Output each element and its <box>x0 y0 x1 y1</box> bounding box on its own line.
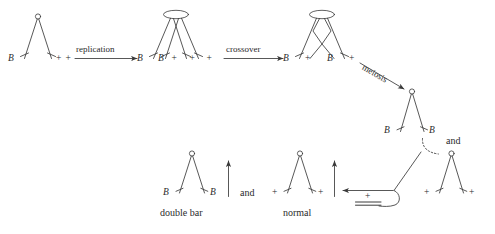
stage2-arm-label-1: B <box>158 54 164 64</box>
result-normal-label-left: + <box>272 188 277 198</box>
stage2-trailing-label: + <box>207 54 212 64</box>
and-connector-top: and <box>446 136 460 146</box>
loop-fragment-label: + <box>365 192 370 202</box>
stage3-arm-label-0: B <box>283 54 289 64</box>
stage1-chromosome <box>21 14 56 59</box>
crossover-arrow-label: crossover <box>226 45 261 54</box>
result-double-bar-label-left: B <box>163 188 169 198</box>
figure-canvas: B + + replication B B + + + crossover B … <box>0 0 495 234</box>
diagram-vector-layer <box>0 0 495 234</box>
product-double-bar-label-left: B <box>384 126 390 136</box>
product-normal-label-right: + <box>469 188 474 198</box>
result-double-bar-label-right: B <box>210 188 216 198</box>
stage3-arm-label-1: + <box>305 54 310 64</box>
stage2-arm-label-3: + <box>190 54 195 64</box>
stage2-chromosome <box>150 10 203 58</box>
stage2-leading-label: B <box>137 54 143 64</box>
result-normal-caption: normal <box>283 208 311 218</box>
stage1-trailing-label: + <box>66 54 71 64</box>
and-connector-bottom: and <box>240 188 254 198</box>
double-line-fragment-symbol <box>356 202 382 205</box>
result-normal-chromosome <box>284 151 316 193</box>
dotted-excision-connector <box>422 139 438 155</box>
product-double-bar-chromosome <box>397 89 428 132</box>
stage3-arm-label-3: + <box>349 54 354 64</box>
replication-arrow-label: replication <box>76 45 114 54</box>
stage3-chromosome <box>296 10 349 58</box>
stage1-arm-label-right: + <box>56 54 61 64</box>
product-double-bar-label-right: B <box>429 126 435 136</box>
return-loop-path <box>343 152 421 206</box>
stage2-arm-label-2: + <box>172 54 177 64</box>
result-normal-label-right: + <box>318 188 323 198</box>
stage1-arm-label-left: B <box>8 54 14 64</box>
result-double-bar-chromosome <box>176 151 208 193</box>
result-double-bar-caption: double bar <box>160 208 203 218</box>
stage3-arm-label-2: B <box>327 54 333 64</box>
product-normal-chromosome <box>436 151 467 193</box>
product-normal-label-left: + <box>424 188 429 198</box>
